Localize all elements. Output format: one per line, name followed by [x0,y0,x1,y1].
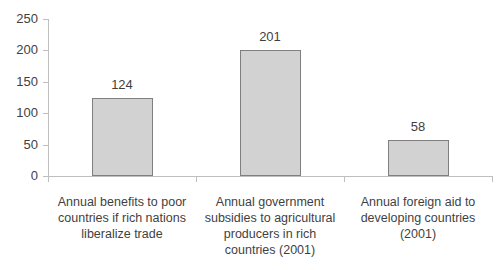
bar-chart: 050100150200250 12420158 Annual benefits… [0,0,503,270]
bar [92,98,153,176]
bar-value-label: 58 [388,119,448,134]
y-axis-tick-label: 50 [0,137,38,153]
x-axis-line [48,176,493,177]
x-axis-tick-mark [48,177,49,182]
bar-value-label: 124 [92,77,152,92]
bar [240,50,301,176]
bar [388,140,449,176]
y-axis-tick-label: 150 [0,74,38,90]
x-axis-tick-mark [492,177,493,182]
y-axis-tick-label: 200 [0,42,38,58]
y-axis-tick-label: 0 [0,168,38,184]
y-axis-tick-label: 100 [0,105,38,121]
y-axis-tick-label: 250 [0,11,38,27]
x-axis-tick-mark [344,177,345,182]
category-axis-label: Annual benefits to poor countries if ric… [48,194,196,242]
category-axis-label: Annual government subsidies to agricultu… [196,194,344,258]
y-axis-line [48,19,49,176]
bar-value-label: 201 [240,29,300,44]
x-axis-tick-mark [196,177,197,182]
category-axis-label: Annual foreign aid to developing countri… [344,194,492,242]
